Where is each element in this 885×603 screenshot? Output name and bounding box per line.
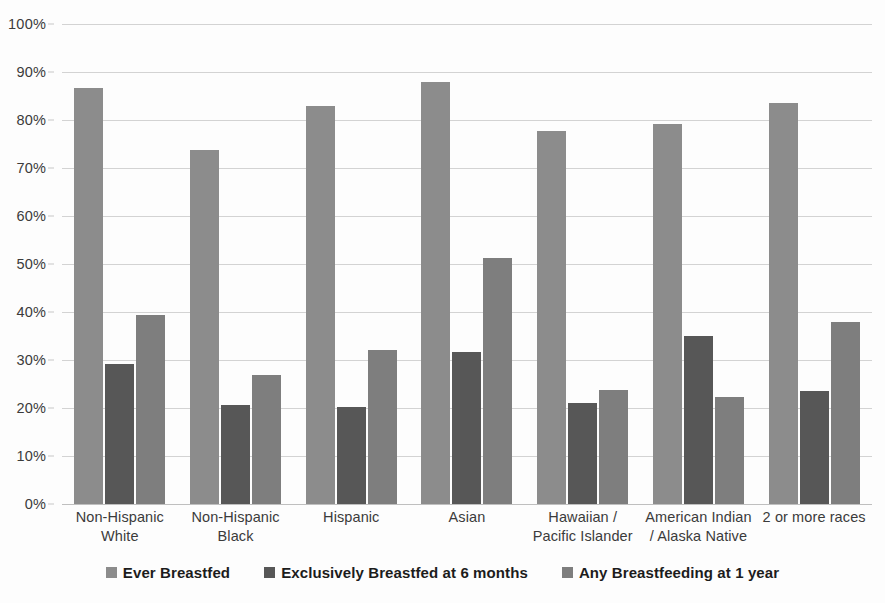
legend-item[interactable]: Exclusively Breastfed at 6 months xyxy=(264,564,528,581)
x-axis-label-line-2: / Alaska Native xyxy=(629,527,769,546)
y-axis-tick-mark xyxy=(48,264,54,265)
bar-series-2[interactable] xyxy=(221,405,250,504)
bar-group xyxy=(641,24,757,504)
legend-item[interactable]: Any Breastfeeding at 1 year xyxy=(562,564,779,581)
bar-series-3[interactable] xyxy=(368,350,397,504)
legend-swatch-icon xyxy=(562,567,573,578)
bar-group-bars xyxy=(62,24,178,504)
bar-group xyxy=(409,24,525,504)
bar-series-1[interactable] xyxy=(74,88,103,504)
bar-series-2[interactable] xyxy=(568,403,597,504)
y-axis-tick-label: 30% xyxy=(16,352,46,368)
x-axis-label-line-1: Asian xyxy=(449,509,486,525)
x-axis-label-line-1: Non-Hispanic xyxy=(191,509,279,525)
bar-group-bars xyxy=(756,24,872,504)
bar-series-3[interactable] xyxy=(483,258,512,504)
legend-label: Ever Breastfed xyxy=(123,564,230,581)
y-axis-tick-mark xyxy=(48,504,54,505)
bar-group xyxy=(756,24,872,504)
x-axis-label-line-1: Non-Hispanic xyxy=(76,509,164,525)
y-axis-tick-mark xyxy=(48,312,54,313)
x-axis: Non-HispanicWhiteNon-HispanicBlackHispan… xyxy=(62,508,872,554)
bar-series-3[interactable] xyxy=(252,375,281,504)
x-axis-category-label: 2 or more races xyxy=(744,508,884,527)
legend-label: Any Breastfeeding at 1 year xyxy=(579,564,779,581)
bar-series-3[interactable] xyxy=(136,315,165,504)
y-axis-tick-label: 90% xyxy=(16,64,46,80)
y-axis-tick-label: 100% xyxy=(8,16,46,32)
y-axis-tick-label: 10% xyxy=(16,448,46,464)
y-axis-tick-mark xyxy=(48,456,54,457)
y-axis: 0%10%20%30%40%50%60%70%80%90%100% xyxy=(0,24,54,504)
y-axis-tick-mark xyxy=(48,408,54,409)
y-axis-tick-mark xyxy=(48,168,54,169)
bar-series-2[interactable] xyxy=(337,407,366,504)
bar-series-1[interactable] xyxy=(537,131,566,504)
x-axis-label-line-1: American Indian xyxy=(645,509,751,525)
y-axis-tick-mark xyxy=(48,72,54,73)
bar-series-2[interactable] xyxy=(800,391,829,504)
bar-group xyxy=(525,24,641,504)
bar-group xyxy=(62,24,178,504)
y-axis-tick-label: 60% xyxy=(16,208,46,224)
bar-chart: 0%10%20%30%40%50%60%70%80%90%100% Non-Hi… xyxy=(0,0,885,603)
bar-series-1[interactable] xyxy=(190,150,219,504)
x-axis-label-line-2: Black xyxy=(166,527,306,546)
legend-swatch-icon xyxy=(264,567,275,578)
chart-legend: Ever BreastfedExclusively Breastfed at 6… xyxy=(0,564,885,581)
bar-series-2[interactable] xyxy=(684,336,713,504)
y-axis-tick-label: 20% xyxy=(16,400,46,416)
gridline xyxy=(62,504,872,505)
y-axis-tick-mark xyxy=(48,24,54,25)
y-axis-tick-label: 0% xyxy=(25,496,46,512)
bar-series-3[interactable] xyxy=(715,397,744,504)
x-axis-label-line-1: Hispanic xyxy=(323,509,379,525)
bar-series-3[interactable] xyxy=(831,322,860,504)
bar-group-bars xyxy=(525,24,641,504)
y-axis-tick-mark xyxy=(48,360,54,361)
y-axis-tick-label: 50% xyxy=(16,256,46,272)
x-axis-label-line-1: Hawaiian / xyxy=(548,509,617,525)
bar-series-1[interactable] xyxy=(769,103,798,504)
bar-group-bars xyxy=(178,24,294,504)
legend-item[interactable]: Ever Breastfed xyxy=(106,564,230,581)
y-axis-tick-label: 40% xyxy=(16,304,46,320)
y-axis-tick-mark xyxy=(48,120,54,121)
bar-series-2[interactable] xyxy=(105,364,134,504)
bar-series-1[interactable] xyxy=(306,106,335,504)
bar-group-bars xyxy=(409,24,525,504)
plot-area xyxy=(62,24,872,504)
bar-series-1[interactable] xyxy=(421,82,450,504)
bar-group-bars xyxy=(641,24,757,504)
x-axis-label-line-1: 2 or more races xyxy=(763,509,866,525)
bar-series-2[interactable] xyxy=(452,352,481,504)
bar-group xyxy=(293,24,409,504)
y-axis-tick-label: 70% xyxy=(16,160,46,176)
legend-swatch-icon xyxy=(106,567,117,578)
bar-series-1[interactable] xyxy=(653,124,682,504)
bar-series-3[interactable] xyxy=(599,390,628,504)
y-axis-tick-label: 80% xyxy=(16,112,46,128)
bar-group-bars xyxy=(293,24,409,504)
bar-group xyxy=(178,24,294,504)
legend-label: Exclusively Breastfed at 6 months xyxy=(281,564,528,581)
y-axis-tick-mark xyxy=(48,216,54,217)
